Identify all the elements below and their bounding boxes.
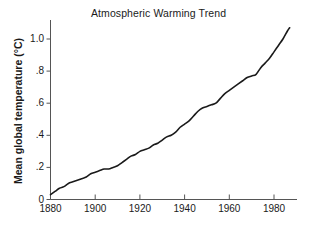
y-tick-label: .2 <box>8 161 44 172</box>
x-tick-label: 1900 <box>71 203 119 214</box>
chart-figure: Atmospheric Warming Trend Mean global te… <box>0 0 317 229</box>
x-tick-label: 1920 <box>116 203 164 214</box>
x-tick-label: 1960 <box>205 203 253 214</box>
x-tick-label: 1880 <box>27 203 75 214</box>
y-tick-label: .8 <box>8 65 44 76</box>
x-tick-label: 1980 <box>250 203 298 214</box>
y-tick-label: .4 <box>8 129 44 140</box>
x-tick-label: 1940 <box>161 203 209 214</box>
y-tick-label: .6 <box>8 97 44 108</box>
y-axis-ticks <box>47 39 51 200</box>
temperature-series-line <box>51 28 290 195</box>
x-axis-ticks <box>51 195 275 200</box>
y-tick-label: 1.0 <box>8 33 44 44</box>
plot-area <box>0 0 317 229</box>
